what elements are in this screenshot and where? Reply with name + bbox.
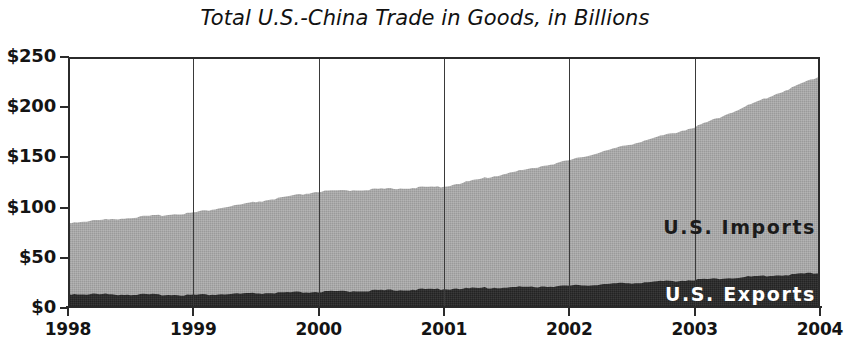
x-axis-tick — [568, 308, 570, 316]
y-axis-tick-label: $100 — [0, 196, 56, 217]
gridline-2001 — [444, 57, 445, 308]
x-axis-tick — [318, 308, 320, 316]
y-axis-tick — [60, 207, 69, 209]
x-axis-tick — [694, 308, 696, 316]
x-axis-tick-label: 1999 — [158, 319, 228, 339]
x-axis-tick-label: 2003 — [660, 319, 730, 339]
y-axis-label-group: $150 — [0, 145, 56, 163]
gridline-2002 — [569, 57, 570, 308]
x-axis-tick-label: 1998 — [33, 319, 103, 339]
y-axis-label-group: $250 — [0, 45, 56, 63]
y-axis-tick-label: $50 — [0, 246, 56, 267]
y-axis-label-group: $200 — [0, 95, 56, 113]
y-axis-tick — [60, 56, 69, 58]
y-axis-tick-label: $200 — [0, 95, 56, 116]
gridline-2000 — [319, 57, 320, 308]
chart-title: Total U.S.-China Trade in Goods, in Bill… — [0, 6, 850, 30]
y-axis-label-group: $0 — [0, 296, 56, 314]
y-axis-tick-label: $250 — [0, 45, 56, 66]
plot-area — [68, 57, 820, 308]
x-axis-tick-label: 2004 — [785, 319, 850, 339]
x-axis-tick — [192, 308, 194, 316]
y-axis-tick — [60, 106, 69, 108]
x-axis-tick-label: 2001 — [409, 319, 479, 339]
x-axis-tick — [67, 308, 69, 316]
gridline-1999 — [193, 57, 194, 308]
x-axis-tick — [819, 308, 821, 316]
series-label-us-imports: U.S. Imports — [663, 216, 816, 238]
gridline-2003 — [695, 57, 696, 308]
y-axis-tick-label: $150 — [0, 145, 56, 166]
x-axis-tick-label: 2000 — [284, 319, 354, 339]
x-axis-tick — [443, 308, 445, 316]
chart-figure: Total U.S.-China Trade in Goods, in Bill… — [0, 0, 850, 346]
y-axis-label-group: $50 — [0, 246, 56, 264]
y-axis-tick — [60, 257, 69, 259]
series-label-us-exports: U.S. Exports — [665, 283, 816, 305]
y-axis-tick-label: $0 — [0, 296, 56, 317]
x-axis-tick-label: 2002 — [534, 319, 604, 339]
y-axis-tick — [60, 156, 69, 158]
y-axis-label-group: $100 — [0, 196, 56, 214]
